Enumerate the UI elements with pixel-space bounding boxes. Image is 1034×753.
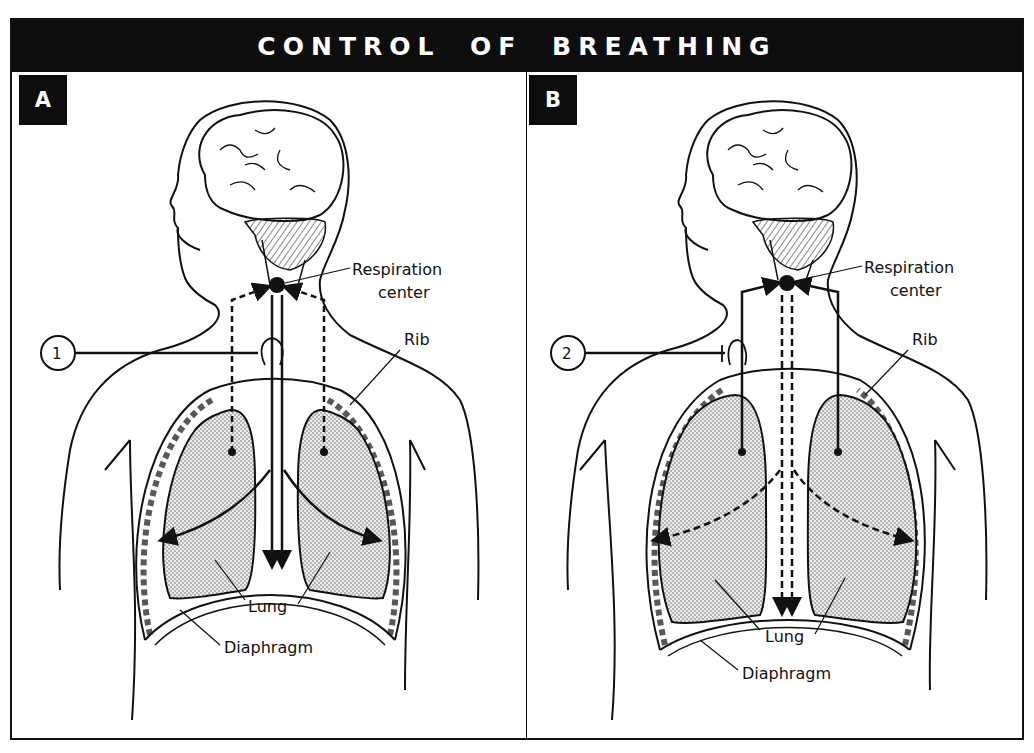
label-diaphragm: Diaphragm [224, 638, 313, 657]
brain-icon [199, 110, 343, 221]
label-respiration-center-b-2: center [890, 281, 942, 300]
label-rib-b: Rib [912, 330, 938, 349]
respiration-center-dot-b [779, 275, 795, 291]
panel-a: Respiration center 1 Rib Lung [41, 101, 478, 720]
label-respiration-center-2: center [378, 283, 430, 302]
label-respiration-center-b: Respiration [864, 258, 954, 277]
label-lung: Lung [248, 597, 287, 616]
label-rib: Rib [404, 330, 430, 349]
label-diaphragm-b: Diaphragm [742, 664, 831, 683]
label-respiration-center: Respiration [352, 260, 442, 279]
marker-2-text: 2 [562, 345, 572, 363]
brain-icon-b [707, 110, 851, 221]
cerebellum-icon [245, 218, 325, 270]
lung-right-b [808, 395, 916, 623]
panel-b: Respiration center 2 Rib Lung Diaphragm [551, 101, 986, 720]
lung-left-b [659, 395, 766, 623]
respiration-center-dot [269, 277, 285, 293]
marker-1-text: 1 [52, 345, 62, 363]
diagram-artwork: Respiration center 1 Rib Lung [0, 0, 1034, 753]
label-lung-b: Lung [765, 627, 804, 646]
cerebellum-icon-b [753, 218, 833, 270]
